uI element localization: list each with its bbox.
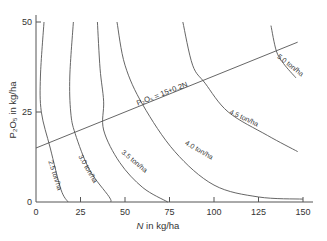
x-tick-label: 0 <box>33 207 38 217</box>
x-tick-label: 75 <box>164 207 174 217</box>
curve-label: 4.5 ton/ha <box>228 108 259 128</box>
y-tick-label: 25 <box>22 107 32 117</box>
x-tick-label: 100 <box>206 207 221 217</box>
x-tick-label: 25 <box>75 207 85 217</box>
y-ticks: 02550 <box>22 17 41 207</box>
curve-label: 3.5 ton/ha <box>120 148 148 173</box>
axes <box>36 15 313 202</box>
yield-curves <box>36 22 303 202</box>
yield-curve <box>97 22 167 202</box>
curve-labels: 2.5 ton/ha3.0 ton/ha3.5 ton/ha4.0 ton/ha… <box>47 53 305 192</box>
curve-label: 5.0 ton/ha <box>276 53 305 78</box>
curve-label: 2.5 ton/ha <box>47 159 63 191</box>
y-tick-label: 50 <box>22 17 32 27</box>
curve-label: 4.0 ton/ha <box>184 139 215 161</box>
y-axis-label: P₂O₅ in kg/ha <box>7 81 18 139</box>
x-axis-label: N in kg/ha <box>137 220 181 231</box>
y-tick-label: 0 <box>27 197 32 207</box>
x-tick-label: 150 <box>295 207 310 217</box>
curve-label: 3.0 ton/ha <box>77 154 99 185</box>
x-ticks: 0255075100125150 <box>33 197 310 217</box>
x-tick-label: 125 <box>251 207 266 217</box>
line-label: P₂O₅ = 15+0.2N <box>135 80 189 108</box>
yield-curve <box>183 22 298 152</box>
x-tick-label: 50 <box>120 207 130 217</box>
chart: 0255075100125150 02550 2.5 ton/ha3.0 ton… <box>0 0 327 241</box>
